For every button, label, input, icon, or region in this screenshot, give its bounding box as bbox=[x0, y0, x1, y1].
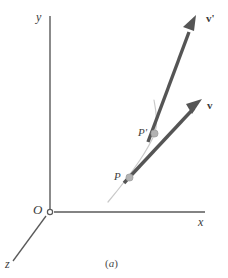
figure-container: y x z O P P' v v' (a) bbox=[0, 0, 228, 278]
axes-group bbox=[13, 16, 205, 261]
point-label-P-prime: P' bbox=[138, 127, 147, 138]
origin-marker-icon bbox=[47, 209, 52, 214]
vector-label-v: v bbox=[207, 100, 213, 111]
figure-caption-letter: a bbox=[109, 257, 115, 269]
vector-v-prime bbox=[148, 15, 196, 142]
vector-label-v-prime: v' bbox=[206, 13, 215, 24]
vector-v bbox=[124, 99, 202, 183]
origin-label: O bbox=[33, 203, 42, 216]
x-axis-label: x bbox=[198, 216, 203, 228]
z-axis bbox=[13, 216, 46, 261]
point-marker-P-prime bbox=[151, 130, 158, 137]
point-label-P: P bbox=[114, 171, 121, 182]
point-marker-P bbox=[126, 174, 133, 181]
y-axis-label: y bbox=[36, 11, 41, 23]
z-axis-label: z bbox=[5, 258, 10, 270]
figure-caption: (a) bbox=[105, 258, 118, 269]
figure-canvas bbox=[0, 0, 228, 278]
trajectory-curve bbox=[108, 100, 156, 202]
